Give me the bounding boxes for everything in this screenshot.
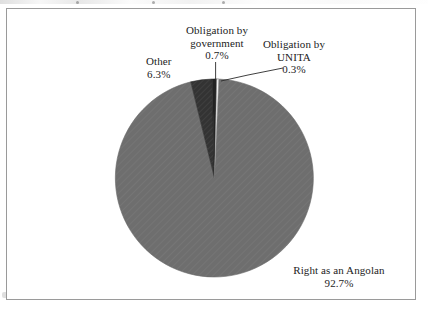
figure-page: Other 6.3% Obligation by government 0.7%… [0,0,428,313]
slice-label-right-as-an-angolan: Right as an Angolan 92.7% [280,264,398,289]
slice-label-right-value: 92.7% [280,277,398,290]
slice-label-obligation-by-unita: Obligation by UNITA 0.3% [252,38,336,76]
slice-label-obligation-by-government: Obligation by government 0.7% [170,24,264,62]
slice-label-government-name-line2: government [170,37,264,50]
slice-label-other-value: 6.3% [146,68,172,81]
slice-label-government-name-line1: Obligation by [186,24,248,36]
slice-label-right-name: Right as an Angolan [293,264,384,276]
slice-label-other: Other 6.3% [146,55,172,80]
slice-label-government-value: 0.7% [170,49,264,62]
slice-label-unita-value: 0.3% [252,63,336,76]
slice-label-unita-name-line2: UNITA [252,51,336,64]
slice-label-other-name: Other [146,55,172,67]
slice-label-unita-name-line1: Obligation by [263,38,325,50]
